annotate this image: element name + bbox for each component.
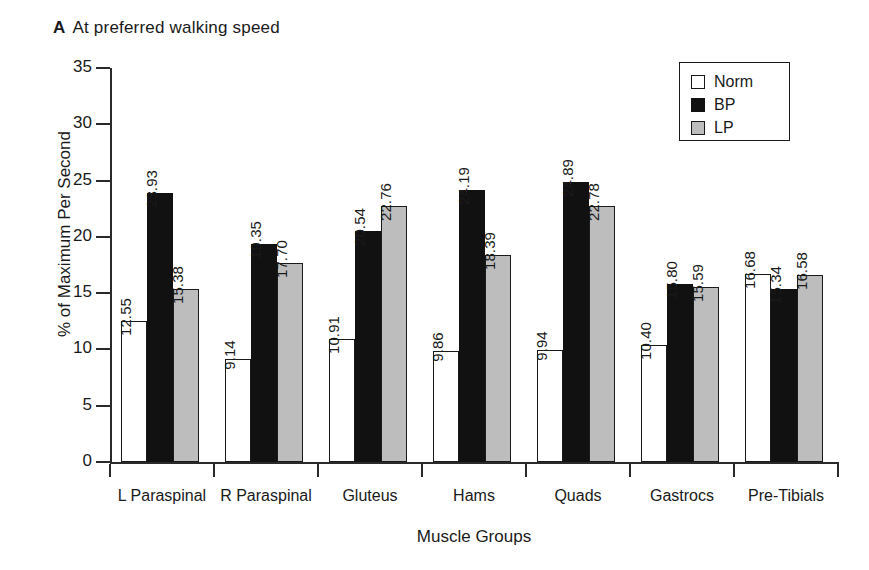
bar-lp[interactable]: 16.58 [797, 275, 823, 462]
bar-bp[interactable]: 15.80 [667, 284, 693, 462]
bar-lp[interactable]: 17.70 [277, 263, 303, 462]
legend-swatch-icon [691, 121, 705, 135]
x-tick [109, 464, 111, 477]
y-tick [96, 236, 110, 238]
bar-norm[interactable]: 9.14 [225, 359, 251, 462]
bar-norm[interactable]: 9.94 [537, 350, 563, 462]
y-tick [96, 292, 110, 294]
bar-value-label: 10.91 [325, 316, 342, 354]
x-tick [629, 464, 631, 477]
x-axis-line [110, 462, 839, 464]
bar-value-label: 18.39 [481, 232, 498, 270]
bar-value-label: 23.93 [143, 170, 160, 208]
bar-value-label: 20.54 [351, 208, 368, 246]
bar-lp[interactable]: 18.39 [485, 255, 511, 462]
bar-value-label: 9.86 [429, 332, 446, 362]
x-category-label: Gastrocs [630, 487, 734, 505]
bar-group: 9.1419.3517.70 [225, 68, 303, 462]
x-tick [733, 464, 735, 477]
bar-norm[interactable]: 10.40 [641, 345, 667, 462]
bar-value-label: 22.76 [377, 183, 394, 221]
bar-value-label: 17.70 [273, 240, 290, 278]
bar-lp[interactable]: 22.76 [381, 206, 407, 462]
y-tick-label: 10 [48, 338, 92, 358]
bar-value-label: 16.68 [741, 251, 758, 289]
bar-value-label: 9.94 [533, 331, 550, 361]
bar-group: 9.8624.1918.39 [433, 68, 511, 462]
y-tick [96, 180, 110, 182]
legend: NormBPLP [679, 62, 790, 141]
legend-item-norm[interactable]: Norm [691, 70, 789, 93]
legend-swatch-icon [691, 75, 705, 89]
bar-lp[interactable]: 15.38 [173, 289, 199, 462]
y-tick [96, 405, 110, 407]
x-axis-title: Muscle Groups [110, 527, 838, 547]
x-category-label: Hams [422, 487, 526, 505]
legend-label: Norm [714, 74, 753, 90]
bar-norm[interactable]: 10.91 [329, 339, 355, 462]
y-tick-label: 30 [48, 113, 92, 133]
bar-value-label: 15.80 [663, 261, 680, 299]
y-tick-label: 0 [48, 451, 92, 471]
bar-bp[interactable]: 24.19 [459, 190, 485, 462]
bar-value-label: 22.78 [585, 183, 602, 221]
bar-bp[interactable]: 15.34 [771, 289, 797, 462]
legend-item-lp[interactable]: LP [691, 116, 789, 139]
y-tick [96, 123, 110, 125]
bar-value-label: 9.14 [221, 340, 238, 370]
x-tick [525, 464, 527, 477]
legend-item-bp[interactable]: BP [691, 93, 789, 116]
bar-value-label: 16.58 [793, 252, 810, 290]
x-tick [421, 464, 423, 477]
bar-value-label: 19.35 [247, 221, 264, 259]
x-tick [837, 464, 839, 477]
bar-group: 9.9424.8922.78 [537, 68, 615, 462]
panel-tag: A [53, 18, 65, 37]
bar-value-label: 15.34 [767, 266, 784, 304]
x-category-label: R Paraspinal [214, 487, 318, 505]
bar-norm[interactable]: 12.55 [121, 321, 147, 462]
bar-bp[interactable]: 20.54 [355, 231, 381, 462]
y-tick-label: 5 [48, 395, 92, 415]
bar-bp[interactable]: 24.89 [563, 182, 589, 462]
y-tick-label: 20 [48, 226, 92, 246]
y-tick-label: 15 [48, 282, 92, 302]
x-tick [213, 464, 215, 477]
bar-value-label: 10.40 [637, 322, 654, 360]
y-tick [96, 461, 110, 463]
panel-title: AAt preferred walking speed [53, 18, 280, 38]
legend-label: LP [714, 120, 734, 136]
bar-value-label: 15.38 [169, 266, 186, 304]
legend-label: BP [714, 97, 735, 113]
bar-value-label: 24.89 [559, 159, 576, 197]
bar-value-label: 15.59 [689, 263, 706, 301]
bar-norm[interactable]: 9.86 [433, 351, 459, 462]
bar-group: 10.9120.5422.76 [329, 68, 407, 462]
x-category-label: Pre-Tibials [734, 487, 838, 505]
x-tick [317, 464, 319, 477]
bar-lp[interactable]: 15.59 [693, 287, 719, 462]
x-category-label: Quads [526, 487, 630, 505]
y-tick [96, 67, 110, 69]
bar-bp[interactable]: 23.93 [147, 193, 173, 462]
bar-group: 12.5523.9315.38 [121, 68, 199, 462]
panel-title-text: At preferred walking speed [72, 18, 279, 37]
y-tick-label: 25 [48, 170, 92, 190]
figure-panel-a: AAt preferred walking speed % of Maximum… [0, 0, 869, 570]
y-tick [96, 348, 110, 350]
legend-swatch-icon [691, 98, 705, 112]
x-category-label: Gluteus [318, 487, 422, 505]
bar-value-label: 24.19 [455, 167, 472, 205]
y-tick-label: 35 [48, 57, 92, 77]
bar-lp[interactable]: 22.78 [589, 206, 615, 462]
bar-value-label: 12.55 [117, 298, 134, 336]
x-category-label: L Paraspinal [110, 487, 214, 505]
